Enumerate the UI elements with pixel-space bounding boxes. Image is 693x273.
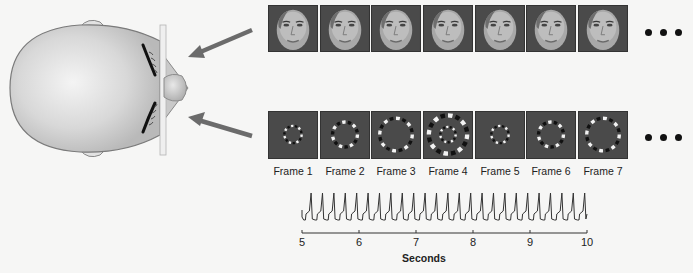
ellipsis-dot xyxy=(660,29,667,36)
face-frame xyxy=(371,5,421,52)
frame-label: Frame 6 xyxy=(524,165,578,177)
x-axis-tick-label: 5 xyxy=(292,236,312,248)
head-illustration xyxy=(0,0,260,170)
face-frame xyxy=(423,5,473,52)
x-axis-tick-label: 7 xyxy=(406,236,426,248)
frame-label: Frame 4 xyxy=(421,165,475,177)
checkerboard-ring-icon xyxy=(321,112,369,158)
ellipsis-dot xyxy=(675,29,682,36)
x-axis-tick-label: 8 xyxy=(463,236,483,248)
checkerboard-frame xyxy=(268,111,318,159)
head-shape xyxy=(10,25,160,152)
face-icon xyxy=(527,6,575,51)
face-icon xyxy=(476,6,524,51)
frame-label: Frame 7 xyxy=(576,165,630,177)
checkerboard-frame xyxy=(371,111,421,159)
ellipsis-dot xyxy=(645,134,652,141)
frame-label: Frame 1 xyxy=(266,165,320,177)
checkerboard-row-ellipsis xyxy=(645,134,682,141)
face-icon xyxy=(372,6,420,51)
x-axis-tick-label: 9 xyxy=(520,236,540,248)
checkerboard-frame xyxy=(423,111,473,159)
face-icon xyxy=(424,6,472,51)
face-icon xyxy=(321,6,369,51)
checkerboard-ring-icon xyxy=(424,112,472,158)
checkerboard-frame xyxy=(526,111,576,159)
face-icon xyxy=(579,6,627,51)
ellipsis-dot xyxy=(660,134,667,141)
figure: 5678910 Seconds Frame 1Frame 2Frame 3Fra… xyxy=(0,0,693,273)
x-axis-tick-label: 6 xyxy=(349,236,369,248)
checkerboard-ring-icon xyxy=(527,112,575,158)
face-frame xyxy=(320,5,370,52)
checkerboard-frame xyxy=(578,111,628,159)
face-icon xyxy=(269,6,317,51)
checkerboard-frame xyxy=(475,111,525,159)
x-axis-tick-label: 10 xyxy=(577,236,597,248)
checkerboard-ring-icon xyxy=(269,112,317,158)
frame-label: Frame 3 xyxy=(369,165,423,177)
checkerboard-ring-icon xyxy=(579,112,627,158)
checkerboard-ring-icon xyxy=(476,112,524,158)
frame-label: Frame 5 xyxy=(473,165,527,177)
waveform-trace xyxy=(302,193,587,220)
ellipsis-dot xyxy=(645,29,652,36)
face-frame xyxy=(268,5,318,52)
frame-label: Frame 2 xyxy=(318,165,372,177)
face-row-ellipsis xyxy=(645,29,682,36)
checkerboard-frame xyxy=(320,111,370,159)
ellipsis-dot xyxy=(675,134,682,141)
face-frame xyxy=(475,5,525,52)
checkerboard-ring-icon xyxy=(372,112,420,158)
x-axis-title: Seconds xyxy=(394,252,454,264)
face-frame xyxy=(578,5,628,52)
face-frame xyxy=(526,5,576,52)
nose-icon xyxy=(164,74,187,101)
